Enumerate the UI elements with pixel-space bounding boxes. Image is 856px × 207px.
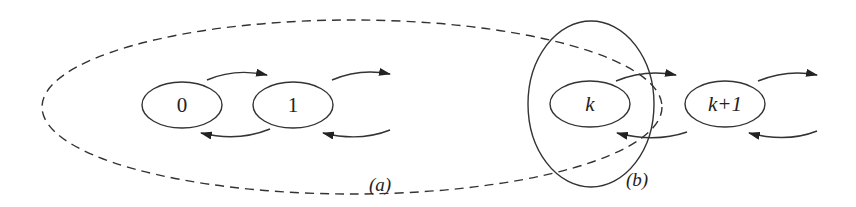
state-0-label: 0 (177, 93, 188, 117)
state-k: k (550, 81, 630, 127)
state-k-plus-1-label: k+1 (708, 92, 742, 116)
arrow-next-to-1 (323, 130, 390, 137)
state-1-label: 1 (288, 93, 299, 117)
arrow-k-plus-1-to-k (617, 132, 687, 138)
arrow-0-to-1 (207, 72, 267, 80)
arrow-1-to-0 (201, 129, 270, 137)
arrow-k-plus-1-to-next (758, 73, 817, 81)
state-1: 1 (253, 82, 333, 128)
state-diagram: (a) (b) 0 1 k k+1 (0, 0, 856, 207)
state-0: 0 (142, 82, 222, 128)
arrow-k-to-k-plus-1 (616, 73, 676, 81)
region-b-label: (b) (626, 169, 648, 191)
state-k-label: k (585, 92, 595, 116)
arrow-next-to-k-plus-1 (749, 131, 817, 138)
region-a-label: (a) (369, 174, 391, 196)
state-k-plus-1: k+1 (685, 81, 765, 127)
arrow-1-to-next (332, 72, 390, 80)
